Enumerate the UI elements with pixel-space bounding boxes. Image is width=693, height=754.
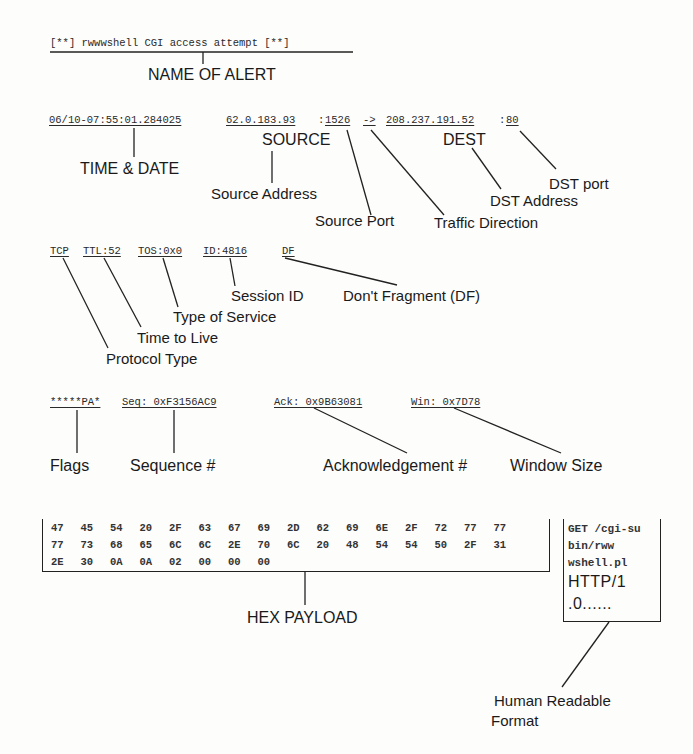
dest-colon: : bbox=[499, 114, 505, 126]
sequence-label: Sequence # bbox=[130, 457, 215, 474]
hex-byte: 77 bbox=[464, 522, 494, 534]
ascii-line-4: HTTP/1 bbox=[568, 573, 626, 591]
human-readable-label: Human Readable bbox=[494, 692, 611, 709]
flags-field: *****PA* bbox=[50, 396, 100, 408]
source-label: SOURCE bbox=[262, 131, 330, 148]
source-ip-field: 62.0.183.93 bbox=[226, 114, 295, 126]
hex-byte: 2F bbox=[169, 522, 199, 534]
hex-byte: 45 bbox=[81, 522, 111, 534]
hex-byte: 68 bbox=[110, 539, 140, 551]
hex-byte: 54 bbox=[405, 539, 435, 551]
hex-byte: 20 bbox=[317, 539, 347, 551]
hex-byte: 47 bbox=[51, 522, 81, 534]
protocol-field: TCP bbox=[50, 245, 69, 257]
hex-row-3: 2E300A0A02000000 bbox=[51, 556, 287, 568]
dont-fragment-label: Don't Fragment (DF) bbox=[343, 287, 480, 304]
hex-byte: 70 bbox=[258, 539, 288, 551]
hex-byte: 6E bbox=[376, 522, 406, 534]
hex-byte: 67 bbox=[228, 522, 258, 534]
hex-row-2: 777368656C6C2E706C20485454502F31 bbox=[51, 539, 523, 551]
hex-byte: 20 bbox=[140, 522, 170, 534]
hex-byte: 73 bbox=[81, 539, 111, 551]
hex-byte: 2E bbox=[228, 539, 258, 551]
hex-byte: 2D bbox=[287, 522, 317, 534]
source-port-label: Source Port bbox=[315, 212, 394, 229]
hex-byte: 0A bbox=[110, 556, 140, 568]
hex-byte: 30 bbox=[81, 556, 111, 568]
ascii-payload-box: GET /cgi-su bin/rww wshell.pl HTTP/1 .0.… bbox=[563, 519, 661, 622]
hex-byte: 77 bbox=[51, 539, 81, 551]
dest-label: DEST bbox=[443, 131, 486, 148]
hex-byte: 00 bbox=[258, 556, 288, 568]
hex-byte: 2E bbox=[51, 556, 81, 568]
hex-payload-box: 474554202F6367692D62696E2F727777 7773686… bbox=[42, 519, 550, 572]
hex-byte: 0A bbox=[140, 556, 170, 568]
format-label: Format bbox=[491, 712, 539, 729]
time-to-live-label: Time to Live bbox=[137, 329, 218, 346]
acknowledgement-label: Acknowledgement # bbox=[323, 457, 467, 474]
hex-payload-label: HEX PAYLOAD bbox=[247, 609, 358, 626]
hex-byte: 54 bbox=[110, 522, 140, 534]
ascii-line-1: GET /cgi-su bbox=[568, 523, 641, 535]
direction-arrow-field: -> bbox=[363, 114, 376, 126]
hex-byte: 00 bbox=[199, 556, 229, 568]
hex-byte: 65 bbox=[140, 539, 170, 551]
hex-byte: 69 bbox=[346, 522, 376, 534]
dst-address-label: DST Address bbox=[490, 192, 578, 209]
ack-field: Ack: 0x9B63081 bbox=[274, 396, 362, 408]
timestamp-field: 06/10-07:55:01.284025 bbox=[49, 114, 181, 126]
hex-byte: 6C bbox=[199, 539, 229, 551]
hex-byte: 54 bbox=[376, 539, 406, 551]
alert-name-text: [**] rwwwshell CGI access attempt [**] bbox=[50, 37, 289, 49]
hex-byte: 72 bbox=[435, 522, 465, 534]
hex-byte: 48 bbox=[346, 539, 376, 551]
flags-label: Flags bbox=[50, 457, 89, 474]
dest-ip-field: 208.237.191.52 bbox=[386, 114, 474, 126]
name-of-alert-label: NAME OF ALERT bbox=[148, 66, 276, 83]
ascii-line-5: .0...... bbox=[568, 595, 612, 613]
source-port-field: 1526 bbox=[325, 114, 350, 126]
win-field: Win: 0x7D78 bbox=[411, 396, 480, 408]
ascii-line-3: wshell.pl bbox=[568, 557, 627, 569]
hex-byte: 62 bbox=[317, 522, 347, 534]
hex-byte: 50 bbox=[435, 539, 465, 551]
hex-byte: 00 bbox=[228, 556, 258, 568]
session-id-label: Session ID bbox=[231, 287, 304, 304]
id-field: ID:4816 bbox=[203, 245, 247, 257]
hex-byte: 31 bbox=[494, 539, 524, 551]
hex-byte: 2F bbox=[464, 539, 494, 551]
window-size-label: Window Size bbox=[510, 457, 602, 474]
hex-byte: 6C bbox=[169, 539, 199, 551]
hex-byte: 77 bbox=[494, 522, 524, 534]
dest-port-field: 80 bbox=[506, 114, 519, 126]
source-colon: : bbox=[318, 114, 324, 126]
traffic-direction-label: Traffic Direction bbox=[434, 214, 538, 231]
source-address-label: Source Address bbox=[211, 185, 317, 202]
time-date-label: TIME & DATE bbox=[80, 160, 179, 177]
dst-port-label: DST port bbox=[549, 175, 609, 192]
hex-byte: 69 bbox=[258, 522, 288, 534]
hex-byte: 02 bbox=[169, 556, 199, 568]
hex-byte: 6C bbox=[287, 539, 317, 551]
seq-field: Seq: 0xF3156AC9 bbox=[122, 396, 217, 408]
hex-row-1: 474554202F6367692D62696E2F727777 bbox=[51, 522, 523, 534]
tos-field: TOS:0x0 bbox=[138, 245, 182, 257]
ascii-line-2: bin/rww bbox=[568, 540, 614, 552]
ttl-field: TTL:52 bbox=[83, 245, 121, 257]
df-field: DF bbox=[282, 245, 295, 257]
hex-byte: 2F bbox=[405, 522, 435, 534]
hex-byte: 63 bbox=[199, 522, 229, 534]
type-of-service-label: Type of Service bbox=[173, 308, 276, 325]
protocol-type-label: Protocol Type bbox=[106, 350, 197, 367]
